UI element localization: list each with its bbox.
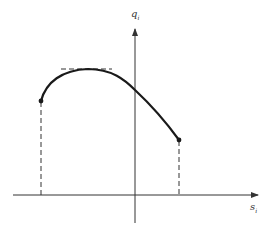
y-axis-label: qi [131,8,139,21]
curve [41,69,179,140]
right-endpoint-dot [177,138,182,143]
diagram-canvas: qi si [0,0,272,231]
x-axis-label: si [250,201,257,214]
left-endpoint-dot [39,99,44,104]
